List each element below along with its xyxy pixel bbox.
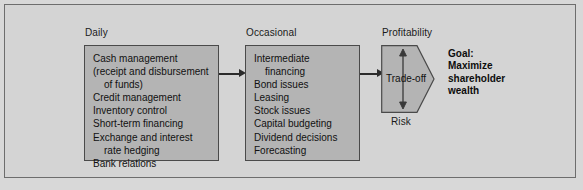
list-item: Bank relations bbox=[93, 157, 218, 170]
list-item: Cash management bbox=[93, 52, 218, 65]
list-item: Leasing bbox=[254, 91, 359, 104]
goal-line: Maximize bbox=[448, 60, 505, 72]
list-item: financing bbox=[254, 65, 359, 78]
list-item: of funds) bbox=[93, 78, 218, 91]
arrow-daily-to-occasional-icon bbox=[219, 69, 246, 78]
occasional-item-list: IntermediatefinancingBond issuesLeasingS… bbox=[246, 46, 359, 157]
daily-caption: Daily bbox=[85, 27, 108, 38]
goal-line: Goal: bbox=[448, 48, 505, 60]
list-item: Bond issues bbox=[254, 78, 359, 91]
list-item: Exchange and interest bbox=[93, 131, 218, 144]
goal-line: wealth bbox=[448, 85, 505, 97]
list-item: Inventory control bbox=[93, 104, 218, 117]
list-item: Stock issues bbox=[254, 104, 359, 117]
occasional-caption: Occasional bbox=[246, 27, 296, 38]
list-item: Credit management bbox=[93, 91, 218, 104]
list-item: Intermediate bbox=[254, 52, 359, 65]
goal-text-block: Goal:Maximizeshareholderwealth bbox=[448, 48, 505, 98]
risk-caption: Risk bbox=[391, 116, 411, 127]
tradeoff-label: Trade-off bbox=[386, 73, 426, 84]
list-item: Forecasting bbox=[254, 144, 359, 157]
diagram-frame: Daily Cash management(receipt and disbur… bbox=[4, 4, 576, 178]
diagram-figure: Daily Cash management(receipt and disbur… bbox=[0, 0, 583, 190]
list-item: Short-term financing bbox=[93, 117, 218, 130]
list-item: Dividend decisions bbox=[254, 131, 359, 144]
profitability-caption: Profitability bbox=[382, 27, 432, 38]
daily-item-list: Cash management(receipt and disbursement… bbox=[85, 46, 218, 170]
list-item: Capital budgeting bbox=[254, 117, 359, 130]
goal-line: shareholder bbox=[448, 73, 505, 85]
list-item: rate hedging bbox=[93, 144, 218, 157]
daily-panel: Cash management(receipt and disbursement… bbox=[84, 45, 219, 161]
list-item: (receipt and disbursement bbox=[93, 65, 218, 78]
occasional-panel: IntermediatefinancingBond issuesLeasingS… bbox=[245, 45, 360, 161]
